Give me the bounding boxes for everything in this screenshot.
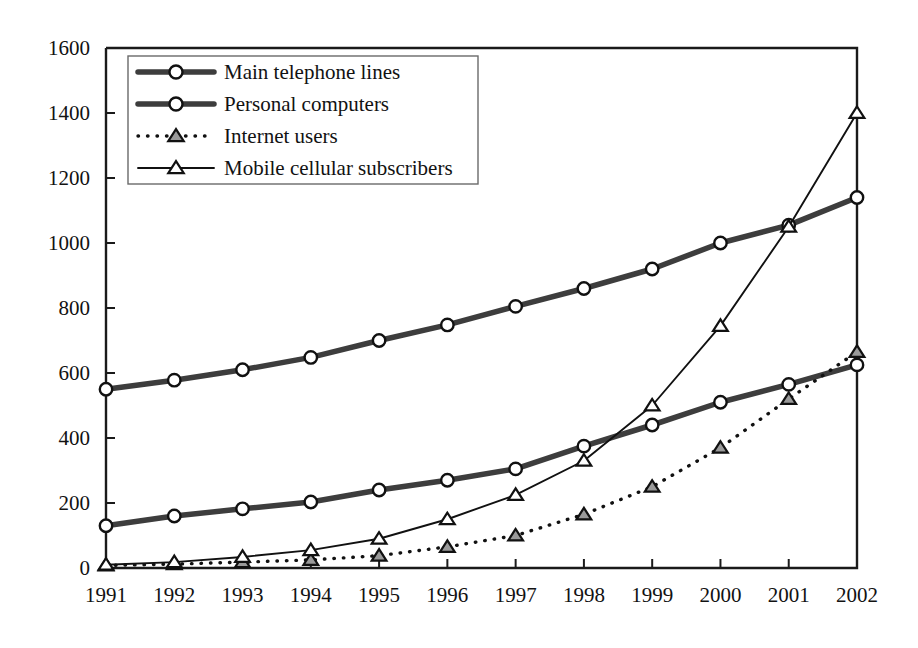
x-axis-tick-label: 2000 (699, 583, 741, 607)
data-point-marker-circle (441, 474, 453, 486)
x-axis-tick-label: 2001 (768, 583, 810, 607)
data-point-marker-circle (646, 263, 658, 275)
chart-legend: Main telephone linesPersonal computersIn… (128, 56, 478, 184)
data-point-marker-circle (646, 419, 658, 431)
x-axis-tick-label: 1999 (631, 583, 673, 607)
data-point-marker-circle (714, 396, 726, 408)
x-axis-tick-labels: 1991199219931994199519961997199819992000… (85, 583, 878, 607)
data-point-marker-triangle (645, 480, 660, 492)
y-axis-tick-label: 1000 (48, 231, 90, 255)
x-axis-tick-label: 1995 (358, 583, 400, 607)
data-point-marker-triangle (850, 345, 865, 357)
x-axis-tick-label: 1997 (495, 583, 537, 607)
y-axis-tick-labels: 02004006008001000120014001600 (48, 36, 90, 580)
x-axis-tick-label: 1993 (222, 583, 264, 607)
data-point-marker-circle (509, 300, 521, 312)
data-point-marker-circle (373, 334, 385, 346)
y-axis-tick-label: 400 (59, 426, 91, 450)
data-point-marker-circle (169, 97, 182, 110)
y-axis-tick-label: 1200 (48, 166, 90, 190)
data-point-marker-circle (578, 282, 590, 294)
legend-item-label: Personal computers (224, 92, 389, 116)
data-point-marker-circle (714, 237, 726, 249)
y-axis-tick-label: 0 (80, 556, 91, 580)
series-main-telephone-lines (100, 191, 863, 395)
data-point-marker-triangle (850, 106, 865, 118)
data-point-marker-circle (578, 440, 590, 452)
data-point-marker-circle (236, 503, 248, 515)
data-point-marker-circle (169, 65, 182, 78)
series-line (106, 365, 857, 526)
data-point-marker-circle (441, 319, 453, 331)
legend-item-label: Mobile cellular subscribers (224, 156, 453, 180)
x-axis-tick-label: 1992 (153, 583, 195, 607)
x-axis-tick-label: 1996 (426, 583, 468, 607)
series-personal-computers (100, 359, 863, 532)
y-axis-tick-label: 200 (59, 491, 91, 515)
data-point-marker-triangle (713, 441, 728, 453)
series-line (106, 198, 857, 390)
series-internet-users (99, 345, 865, 570)
y-axis-tick-label: 1400 (48, 101, 90, 125)
x-axis-tick-label: 2002 (836, 583, 878, 607)
data-point-marker-circle (851, 359, 863, 371)
data-point-marker-circle (305, 351, 317, 363)
y-axis-tick-label: 1600 (48, 36, 90, 60)
series-line (106, 352, 857, 566)
x-axis-tick-label: 1998 (563, 583, 605, 607)
data-point-marker-circle (100, 383, 112, 395)
chart-container: 02004006008001000120014001600 1991199219… (0, 0, 918, 648)
data-point-marker-circle (236, 364, 248, 376)
y-axis-tick-label: 800 (59, 296, 91, 320)
line-chart: 02004006008001000120014001600 1991199219… (0, 0, 918, 648)
legend-item-label: Internet users (224, 124, 338, 148)
data-point-marker-triangle (781, 392, 796, 404)
data-point-marker-circle (168, 374, 180, 386)
x-axis-tick-label: 1991 (85, 583, 127, 607)
data-point-marker-triangle (713, 319, 728, 331)
data-point-marker-circle (305, 496, 317, 508)
x-axis-tick-label: 1994 (290, 583, 333, 607)
data-point-marker-circle (168, 510, 180, 522)
data-point-marker-circle (100, 520, 112, 532)
y-axis-tick-label: 600 (59, 361, 91, 385)
data-point-marker-circle (509, 463, 521, 475)
data-point-marker-circle (783, 378, 795, 390)
data-point-marker-triangle (508, 488, 523, 500)
data-point-marker-circle (851, 191, 863, 203)
data-point-marker-triangle (440, 513, 455, 525)
data-point-marker-triangle (372, 549, 387, 561)
data-point-marker-circle (373, 484, 385, 496)
legend-item-label: Main telephone lines (224, 60, 400, 84)
data-point-marker-triangle (577, 508, 592, 520)
data-point-marker-triangle (440, 540, 455, 552)
